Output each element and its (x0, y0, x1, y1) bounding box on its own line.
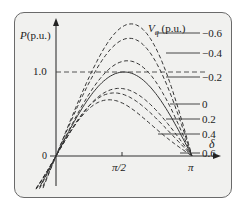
tick-label-origin: 0 (42, 151, 47, 161)
legend-label-1: −0.4 (202, 48, 222, 59)
curve-series-5 (36, 93, 192, 189)
y-axis-label: P(p.u.) (20, 30, 51, 41)
legend-label-6: 0.6 (202, 148, 216, 159)
legend-label-5: 0.4 (202, 129, 216, 140)
legend-label-4: 0.2 (202, 114, 216, 125)
legend-label-0: −0.6 (202, 28, 222, 39)
legend-title-unit: (p.u.) (159, 22, 186, 34)
legend-title: Vq (p.u.) (148, 23, 185, 37)
tick-label-pi: π (188, 162, 194, 173)
legend-label-2: −0.2 (202, 72, 222, 83)
y-unit: (p.u.) (27, 29, 51, 41)
tick-label-half-pi: π/2 (112, 162, 126, 173)
y-axis-arrow-icon (53, 18, 59, 26)
legend-label-3: 0 (202, 99, 208, 110)
tick-label-one: 1.0 (33, 66, 47, 77)
legend-title-v: V (148, 22, 155, 34)
